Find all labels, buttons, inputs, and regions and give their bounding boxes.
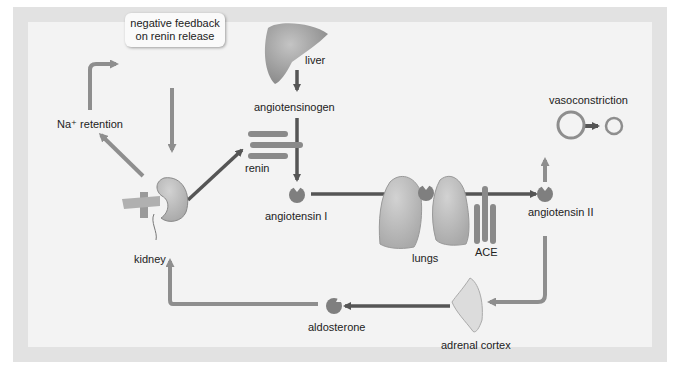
kidney-icon (122, 178, 188, 240)
lungs-label: lungs (412, 252, 439, 264)
lungs-icon (379, 176, 469, 248)
aldosterone-label: aldosterone (308, 321, 366, 333)
negative-feedback-line2: on renin release (125, 30, 225, 43)
negative-feedback-label: negative feedback on renin release (125, 17, 225, 43)
angiotensin-ii-label: angiotensin II (528, 206, 593, 218)
renin-enzyme-icon (248, 131, 303, 159)
renin-label: renin (245, 162, 269, 174)
kidney-label: kidney (134, 253, 166, 265)
angiotensinogen-label: angiotensinogen (254, 101, 335, 113)
liver-label: liver (305, 54, 326, 66)
angiotensin-i-label: angiotensin I (265, 210, 327, 222)
raas-diagram: Na⁺ retention liver angiotensinogen reni… (0, 0, 692, 376)
adrenal-cortex-label: adrenal cortex (441, 339, 511, 351)
aldosterone-molecule-icon (326, 298, 342, 314)
angiotensin-i-molecule-icon (289, 187, 305, 203)
vasoconstriction-label: vasoconstriction (549, 94, 628, 106)
negative-feedback-line1: negative feedback (125, 17, 225, 30)
na-retention-label: Na⁺ retention (57, 118, 123, 130)
adrenal-cortex-icon (452, 278, 482, 332)
angiotensin-ii-molecule-icon (537, 186, 553, 202)
ace-label: ACE (475, 246, 498, 258)
